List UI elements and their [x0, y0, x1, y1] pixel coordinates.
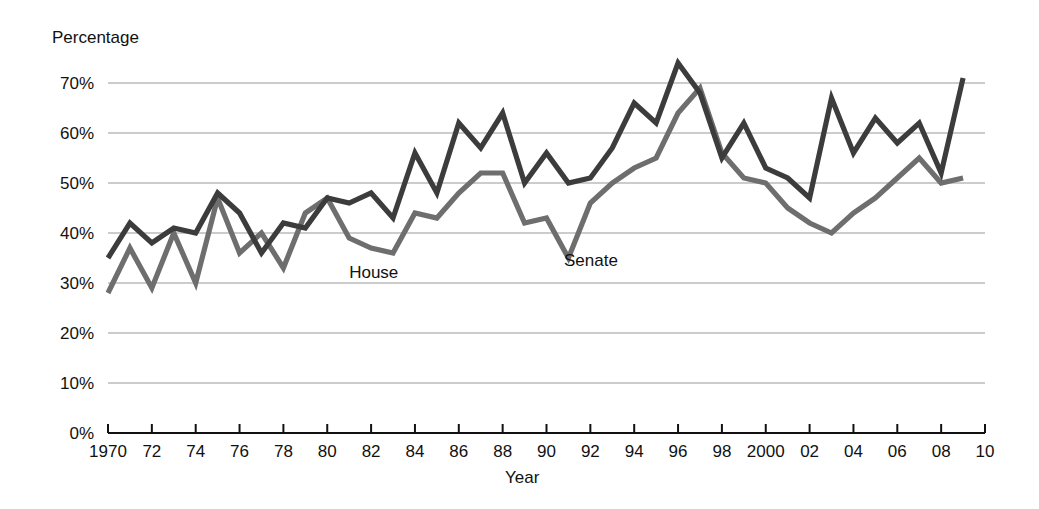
y-tick-label: 40% [60, 224, 94, 243]
x-tick-label: 82 [362, 442, 381, 461]
x-tick-label: 94 [625, 442, 644, 461]
x-tick-label: 08 [932, 442, 951, 461]
x-tick-label: 10 [976, 442, 995, 461]
y-tick-labels-group: 0%10%20%30%40%50%60%70% [60, 74, 94, 443]
y-tick-label: 20% [60, 324, 94, 343]
x-tick-label: 74 [186, 442, 205, 461]
x-tick-label: 80 [318, 442, 337, 461]
chart-container: Percentage Year 0%10%20%30%40%50%60%70% … [0, 0, 1039, 509]
x-tick-label: 72 [142, 442, 161, 461]
x-tick-label: 86 [449, 442, 468, 461]
series-lines-group [108, 63, 963, 293]
x-tick-label: 76 [230, 442, 249, 461]
x-axis-line-group [108, 424, 985, 433]
series-label-senate: Senate [564, 251, 618, 270]
y-tick-label: 10% [60, 374, 94, 393]
x-tick-label: 88 [493, 442, 512, 461]
y-tick-label: 0% [69, 424, 94, 443]
gridlines-group [108, 83, 985, 383]
y-tick-label: 50% [60, 174, 94, 193]
x-tick-label: 84 [405, 442, 424, 461]
series-line-senate [108, 88, 963, 293]
y-tick-label: 70% [60, 74, 94, 93]
series-inline-labels-group: HouseSenate [349, 251, 618, 283]
y-tick-label: 30% [60, 274, 94, 293]
line-chart-plot: 0%10%20%30%40%50%60%70% 1970727476788082… [0, 0, 1039, 509]
x-tick-label: 1970 [89, 442, 127, 461]
x-tick-label: 06 [888, 442, 907, 461]
x-tick-label: 92 [581, 442, 600, 461]
x-tick-label: 90 [537, 442, 556, 461]
y-tick-label: 60% [60, 124, 94, 143]
x-tick-label: 96 [669, 442, 688, 461]
x-tick-label: 02 [800, 442, 819, 461]
x-tick-labels-group: 1970727476788082848688909294969820000204… [89, 442, 994, 461]
series-label-house: House [349, 263, 398, 282]
x-tick-label: 78 [274, 442, 293, 461]
x-tick-label: 2000 [747, 442, 785, 461]
x-tick-label: 04 [844, 442, 863, 461]
x-tick-label: 98 [712, 442, 731, 461]
